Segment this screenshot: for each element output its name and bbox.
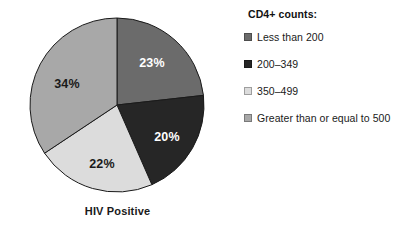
pie-slice-group [30, 18, 204, 192]
legend-item-label: 200–349 [257, 58, 298, 70]
legend-item-label: 350–499 [257, 85, 298, 97]
legend-item[interactable]: Less than 200 [244, 31, 401, 43]
pie-slice-value-label: 34% [54, 77, 80, 91]
legend-title: CD4+ counts: [248, 8, 401, 20]
legend-color-swatch [244, 114, 252, 122]
legend-color-swatch [244, 87, 252, 95]
pie-chart-figure: 23%20%22%34% HIV Positive CD4+ counts: L… [0, 0, 401, 232]
chart-legend: CD4+ counts: Less than 200200–349350–499… [244, 8, 401, 124]
legend-item[interactable]: 350–499 [244, 85, 401, 97]
legend-item-label: Greater than or equal to 500 [257, 112, 390, 124]
pie-slice-value-label: 22% [89, 157, 115, 171]
legend-item-list: Less than 200200–349350–499Greater than … [244, 31, 401, 124]
legend-color-swatch [244, 60, 252, 68]
legend-color-swatch [244, 33, 252, 41]
legend-item[interactable]: Greater than or equal to 500 [244, 112, 401, 124]
pie-chart-area: 23%20%22%34% HIV Positive [0, 0, 235, 232]
legend-item-label: Less than 200 [257, 31, 324, 43]
pie-slice-value-label: 20% [154, 130, 180, 144]
pie-slice-value-label: 23% [139, 56, 165, 70]
pie-chart-caption: HIV Positive [0, 205, 235, 217]
legend-item[interactable]: 200–349 [244, 58, 401, 70]
pie-chart-svg: 23%20%22%34% [0, 0, 235, 232]
